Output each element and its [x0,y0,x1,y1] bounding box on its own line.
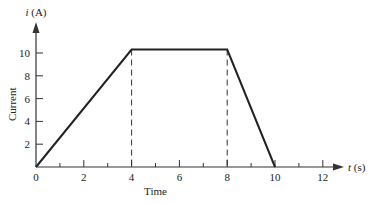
plot-area [36,50,275,167]
y-tick-label: 8 [25,70,31,82]
x-axis-symbol-label: t (s) [348,161,366,174]
axes [33,22,345,171]
y-axis-symbol-label: i (A) [25,6,46,19]
y-tick-label: 2 [25,138,31,150]
current-series-line [36,50,275,167]
x-tick-label: 0 [33,171,39,183]
y-axis-title: Current [6,87,18,121]
x-tick-label: 2 [81,171,87,183]
x-tick-label: 10 [270,171,282,183]
y-tick-label: 10 [19,47,31,59]
y-tick-label: 6 [25,93,31,105]
y-axis-arrow-icon [33,22,40,33]
x-tick-label: 6 [177,171,183,183]
x-axis-title: Time [144,185,167,197]
x-tick-label: 4 [129,171,135,183]
axis-labels: 024681012246810i (A)t (s)TimeCurrent [6,6,366,197]
x-tick-label: 12 [317,171,328,183]
current-time-chart: 024681012246810i (A)t (s)TimeCurrent [0,0,382,204]
y-tick-label: 4 [25,115,31,127]
x-axis-arrow-icon [333,164,344,171]
x-tick-label: 8 [224,171,230,183]
